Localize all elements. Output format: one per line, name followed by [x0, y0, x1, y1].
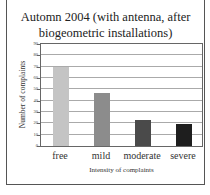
- x-tick-label: mild: [81, 150, 121, 161]
- chart-title-line-1: Automn 2004 (with antenna, after: [6, 9, 205, 25]
- gridline: [41, 54, 202, 55]
- y-axis-label: Number of complaints: [18, 45, 27, 145]
- x-axis-label: Intensity of complaints: [40, 166, 203, 174]
- bar-free: [53, 67, 69, 146]
- bar-severe: [176, 124, 192, 146]
- x-tick-label: free: [40, 150, 80, 161]
- bar-mild: [94, 93, 110, 146]
- chart-title-line-2: biogeometric installations): [6, 25, 205, 41]
- plot-area: [40, 43, 203, 147]
- chart-title: Automn 2004 (with antenna, after biogeom…: [6, 9, 205, 41]
- x-tick-label: moderate: [122, 150, 162, 161]
- bar-moderate: [135, 120, 151, 146]
- x-tick-label: severe: [163, 150, 203, 161]
